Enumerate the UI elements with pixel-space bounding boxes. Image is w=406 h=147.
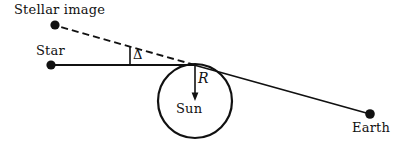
deflection-angle-label: Δ [133,48,142,61]
star-label: Star [36,44,65,57]
earth-dot [365,109,375,119]
sun-to-earth-ray [194,65,370,114]
stellar-image-label: Stellar image [14,3,105,16]
star-dot [46,60,55,69]
earth-label: Earth [352,121,390,134]
radius-label: R [198,71,209,85]
radius-arrow-head [192,93,199,102]
sun-label: Sun [176,102,202,115]
ray-deflection-diagram: Stellar image Star Earth Sun R Δ [0,0,406,147]
apparent-line-of-sight [57,26,195,65]
stellar-image-dot [50,20,59,29]
